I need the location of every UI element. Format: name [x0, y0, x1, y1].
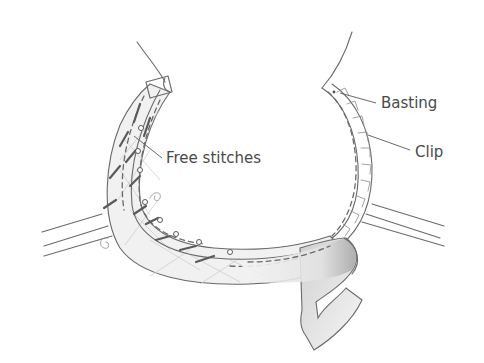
label-free-stitches: Free stitches	[166, 149, 261, 167]
label-basting: Basting	[381, 94, 437, 112]
label-clip: Clip	[415, 143, 443, 161]
armhole-edge-right	[322, 84, 372, 246]
armhole-facing-illustration: Basting Clip Free stitches	[0, 0, 484, 363]
left-side-seam	[42, 214, 112, 256]
right-side-seam	[362, 204, 444, 246]
